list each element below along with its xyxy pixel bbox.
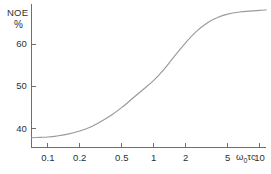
y-axis-title: NOE (7, 7, 28, 18)
plot-canvas (0, 0, 271, 174)
y-tick-label: 40 (5, 123, 27, 134)
y-axis-unit-label: % (14, 19, 23, 30)
x-tick-label: 0.5 (115, 152, 129, 163)
x-tick-marks (48, 143, 260, 148)
x-tick-label: 2 (183, 152, 188, 163)
noe-curve (32, 10, 267, 138)
y-tick-marks (32, 44, 37, 128)
x-axis-title: ω0τc (236, 151, 256, 164)
noe-chart-figure: NOE % ω0τc 0.10.20.512510 405060 (0, 0, 271, 174)
x-tick-label: 1 (151, 152, 156, 163)
x-tick-label: 5 (225, 152, 230, 163)
y-tick-label: 60 (5, 38, 27, 49)
y-tick-label: 50 (5, 80, 27, 91)
x-tick-label: 10 (254, 152, 265, 163)
x-tick-label: 0.2 (73, 152, 87, 163)
x-tick-label: 0.1 (41, 152, 55, 163)
axes-group (31, 4, 266, 148)
